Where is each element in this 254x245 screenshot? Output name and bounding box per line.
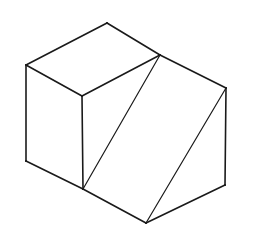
edge-AB	[26, 23, 107, 65]
vertex-H	[145, 222, 147, 224]
vertex-C	[81, 95, 83, 97]
vertex-E	[225, 87, 227, 89]
edge-EH	[146, 88, 226, 223]
edge-EI	[225, 88, 226, 185]
diagram-canvas	[0, 0, 254, 245]
edge-GH	[83, 189, 146, 223]
vertex-I	[224, 184, 226, 186]
edge-BC	[26, 65, 82, 96]
edge-AD	[107, 23, 160, 55]
edges-group	[26, 23, 226, 223]
vertex-B	[25, 64, 27, 66]
vertex-A	[106, 22, 108, 24]
vertex-G	[82, 188, 84, 190]
vertex-F	[25, 160, 27, 162]
edge-DE	[160, 55, 226, 88]
vertex-D	[159, 54, 161, 56]
edge-CG	[82, 96, 83, 189]
vertices-group	[25, 22, 227, 224]
edge-FG	[26, 161, 83, 189]
